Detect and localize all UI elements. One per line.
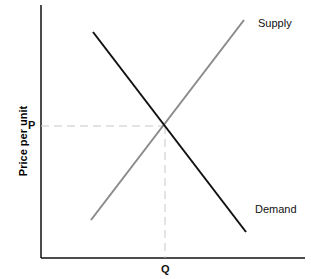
demand-curve [93, 32, 246, 232]
supply-label: Supply [258, 17, 292, 29]
supply-curve [91, 20, 244, 220]
demand-label: Demand [255, 203, 297, 215]
price-tick-label: P [28, 119, 35, 131]
quantity-tick-label: Q [161, 263, 170, 275]
chart-canvas [0, 0, 311, 279]
y-axis-label: Price per unit [17, 96, 29, 186]
